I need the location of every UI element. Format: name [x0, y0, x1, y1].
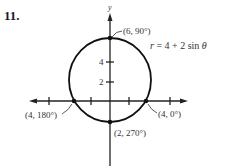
- point-2-270: [108, 120, 113, 125]
- equation-rhs: = 4 + 2 sin: [154, 40, 202, 51]
- point-6-90: [108, 36, 113, 41]
- x-axis: [29, 97, 188, 105]
- label-4-180: (4, 180°): [25, 110, 57, 120]
- polar-graph: y 4 2 (6, 90°) (4, 0°) (4, 180°) (2, 270…: [0, 0, 232, 166]
- label-2-270: (2, 270°): [114, 128, 146, 138]
- y-axis-arrow-icon: [108, 13, 113, 21]
- point-4-0: [144, 99, 149, 104]
- equation-label: r = 4 + 2 sin θ: [150, 40, 207, 51]
- leader-4-0: [148, 104, 157, 113]
- y-tick-label-2: 2: [99, 77, 104, 87]
- x-axis-right-arrow-icon: [180, 99, 188, 104]
- leader-6-90: [112, 31, 122, 37]
- equation-theta: θ: [202, 40, 207, 51]
- point-4-180: [72, 99, 77, 104]
- y-axis-label: y: [107, 3, 112, 12]
- label-4-0: (4, 0°): [158, 109, 181, 119]
- y-axis: y 4 2: [99, 3, 114, 166]
- x-axis-left-arrow-icon: [29, 99, 37, 104]
- label-6-90: (6, 90°): [123, 26, 151, 36]
- y-tick-label-4: 4: [99, 57, 104, 67]
- leader-4-180: [62, 104, 72, 114]
